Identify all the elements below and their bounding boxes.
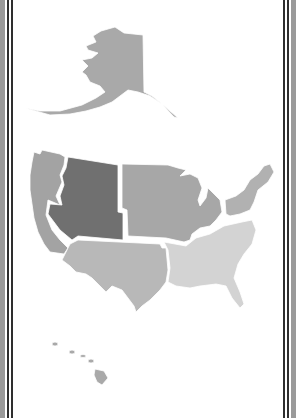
region-northeast[interactable]: Northeast	[225, 164, 274, 216]
us-regions-map: Alaska Pacific West Mountain West Midwes…	[0, 0, 296, 418]
region-alaska[interactable]: Alaska	[25, 27, 178, 118]
region-southwest[interactable]: Southwest	[62, 240, 168, 312]
region-midwest[interactable]: Midwest	[122, 164, 222, 242]
region-hawaii[interactable]: Hawaii	[52, 342, 108, 385]
